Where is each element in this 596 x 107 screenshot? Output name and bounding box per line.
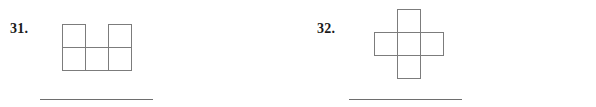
problem-34: 34. bbox=[456, 0, 596, 107]
problem-33: 33. bbox=[306, 0, 456, 107]
grid-cell bbox=[85, 47, 109, 71]
grid-cell bbox=[62, 47, 86, 71]
problem-31: 31. bbox=[0, 0, 158, 107]
problem-32: 32. bbox=[158, 0, 306, 107]
grid-cell bbox=[108, 47, 132, 71]
grid-cell bbox=[108, 24, 132, 48]
problem-number-31: 31. bbox=[10, 21, 28, 37]
grid-cell bbox=[62, 24, 86, 48]
figure-u-shaped-polyomino bbox=[62, 24, 131, 71]
answer-blank-31[interactable] bbox=[40, 99, 153, 100]
worksheet-problem-row: 31. 32. 33. 34. bbox=[0, 0, 596, 107]
